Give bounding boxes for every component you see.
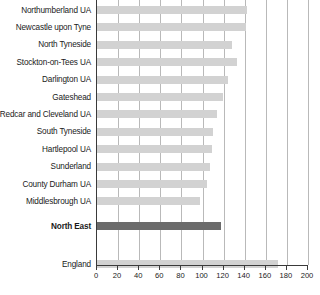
- x-tick-label-200: 200: [301, 271, 314, 280]
- x-tick-140: [244, 266, 245, 270]
- x-tick-120: [223, 266, 224, 270]
- x-tick-label-100: 100: [195, 271, 208, 280]
- x-tick-60: [159, 266, 160, 270]
- x-tick-0: [96, 266, 97, 270]
- category-label-south-tyneside: South Tyneside: [37, 127, 91, 136]
- x-tick-label-40: 40: [134, 271, 142, 280]
- x-tick-label-160: 160: [258, 271, 271, 280]
- x-tick-180: [286, 266, 287, 270]
- x-tick-label-140: 140: [237, 271, 250, 280]
- category-label-north-east: North East: [51, 222, 91, 231]
- bar-hartlepool-ua: [97, 145, 212, 153]
- x-tick-label-60: 60: [155, 271, 163, 280]
- x-tick-20: [117, 266, 118, 270]
- category-label-sunderland: Sunderland: [51, 162, 91, 171]
- x-tick-40: [138, 266, 139, 270]
- bar-chart: Northumberland UANewcastle upon TyneNort…: [0, 0, 320, 295]
- category-label-stockton-on-tees-ua: Stockton-on-Tees UA: [16, 58, 91, 67]
- x-tick-80: [180, 266, 181, 270]
- category-label-north-tyneside: North Tyneside: [38, 40, 91, 49]
- bar-sunderland: [97, 163, 210, 171]
- gridline-120: [224, 0, 225, 265]
- category-label-redcar-and-cleveland-ua: Redcar and Cleveland UA: [0, 110, 91, 119]
- gridline-180: [287, 0, 288, 265]
- x-tick-label-180: 180: [280, 271, 293, 280]
- category-label-newcastle-upon-tyne: Newcastle upon Tyne: [16, 23, 91, 32]
- category-label-middlesbrough-ua: Middlesbrough UA: [26, 197, 91, 206]
- x-tick-label-120: 120: [216, 271, 229, 280]
- bar-redcar-and-cleveland-ua: [97, 110, 217, 118]
- gridline-200: [308, 0, 309, 265]
- x-tick-label-20: 20: [113, 271, 121, 280]
- category-label-northumberland-ua: Northumberland UA: [21, 6, 91, 15]
- category-label-column: Northumberland UANewcastle upon TyneNort…: [0, 0, 94, 265]
- category-label-county-durham-ua: County Durham UA: [22, 180, 91, 189]
- x-axis: 020406080100120140160180200: [96, 265, 307, 295]
- gridline-160: [266, 0, 267, 265]
- x-tick-label-80: 80: [176, 271, 184, 280]
- bar-northumberland-ua: [97, 6, 247, 14]
- bar-north-east: [97, 222, 221, 230]
- gridline-140: [245, 0, 246, 265]
- bar-gateshead: [97, 93, 223, 101]
- bar-south-tyneside: [97, 128, 213, 136]
- category-label-england: England: [62, 260, 91, 269]
- x-tick-200: [307, 266, 308, 270]
- bar-stockton-on-tees-ua: [97, 58, 237, 66]
- bar-newcastle-upon-tyne: [97, 23, 246, 31]
- bar-north-tyneside: [97, 41, 232, 49]
- bar-darlington-ua: [97, 76, 228, 84]
- category-label-gateshead: Gateshead: [52, 93, 91, 102]
- x-tick-100: [202, 266, 203, 270]
- plot-area: [96, 0, 308, 265]
- x-tick-label-0: 0: [94, 271, 98, 280]
- bar-county-durham-ua: [97, 180, 207, 188]
- bar-middlesbrough-ua: [97, 197, 200, 205]
- category-label-hartlepool-ua: Hartlepool UA: [42, 145, 91, 154]
- category-label-darlington-ua: Darlington UA: [42, 75, 91, 84]
- x-tick-160: [265, 266, 266, 270]
